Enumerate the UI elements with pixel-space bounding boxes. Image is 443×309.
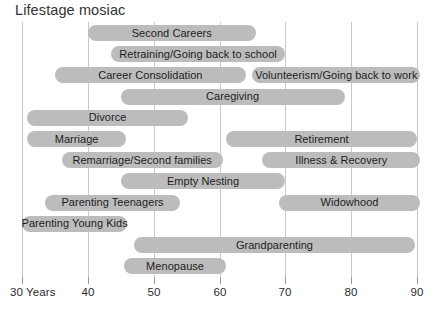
gridline-30 (22, 22, 23, 277)
bar-label: Parenting Teenagers (57, 197, 167, 208)
plot-area: Second CareersRetraining/Going back to s… (0, 22, 443, 277)
axis-tick-50 (154, 277, 155, 284)
bar-label: Empty Nesting (163, 176, 243, 187)
bar-widowhood[interactable]: Widowhood (279, 195, 421, 211)
axis-tick-label-40: 40 (82, 286, 95, 298)
bar-empty-nesting[interactable]: Empty Nesting (121, 173, 286, 189)
bar-label: Grandparenting (232, 240, 317, 251)
bar-label: Illness & Recovery (291, 155, 391, 166)
bar-label: Career Consolidation (94, 70, 206, 81)
axis-tick-label-30: 30 Years (10, 286, 56, 298)
bar-remarriage-second-families[interactable]: Remarriage/Second families (62, 152, 223, 168)
bar-label: Remarriage/Second families (68, 155, 215, 166)
bar-label: Retraining/Going back to school (115, 49, 280, 60)
bar-label: Marriage (51, 134, 103, 145)
axis-tick-40 (88, 277, 89, 284)
bar-label: Second Careers (128, 28, 216, 39)
bar-label: Widowhood (317, 197, 383, 208)
axis-tick-label-70: 70 (279, 286, 292, 298)
bar-parenting-young-kids[interactable]: Parenting Young Kids (22, 216, 127, 232)
bar-label: Parenting Young Kids (18, 218, 132, 229)
bar-divorce[interactable]: Divorce (27, 110, 188, 126)
bar-parenting-teenagers[interactable]: Parenting Teenagers (45, 195, 180, 211)
bar-illness-recovery[interactable]: Illness & Recovery (262, 152, 420, 168)
bar-retraining-going-back-to-school[interactable]: Retraining/Going back to school (111, 46, 285, 62)
axis-tick-90 (417, 277, 418, 284)
axis-tick-70 (285, 277, 286, 284)
bar-menopause[interactable]: Menopause (124, 258, 226, 274)
gridline-90 (417, 22, 418, 277)
lifestage-mosaic-chart: Lifestage mosiac Second CareersRetrainin… (0, 0, 443, 309)
bar-label: Caregiving (202, 91, 263, 102)
bar-caregiving[interactable]: Caregiving (121, 89, 345, 105)
bar-second-careers[interactable]: Second Careers (88, 25, 256, 41)
axis-tick-label-90: 90 (411, 286, 424, 298)
axis-tick-80 (351, 277, 352, 284)
chart-title: Lifestage mosiac (15, 2, 125, 18)
axis-tick-label-80: 80 (345, 286, 358, 298)
axis-tick-60 (220, 277, 221, 284)
axis-tick-label-60: 60 (214, 286, 227, 298)
bar-label: Divorce (85, 112, 131, 123)
bar-grandparenting[interactable]: Grandparenting (134, 237, 415, 253)
x-axis: 30 Years405060708090 (0, 277, 443, 309)
axis-tick-30 (22, 277, 23, 284)
bar-career-consolidation[interactable]: Career Consolidation (55, 67, 246, 83)
bar-marriage[interactable]: Marriage (27, 131, 126, 147)
axis-tick-label-50: 50 (148, 286, 161, 298)
gridline-40 (88, 22, 89, 277)
bar-volunteerism-going-back-to-work[interactable]: Volunteerism/Going back to work (252, 67, 420, 83)
bar-label: Retirement (290, 134, 352, 145)
bar-retirement[interactable]: Retirement (226, 131, 417, 147)
bar-label: Menopause (142, 261, 208, 272)
bar-label: Volunteerism/Going back to work (251, 70, 421, 81)
